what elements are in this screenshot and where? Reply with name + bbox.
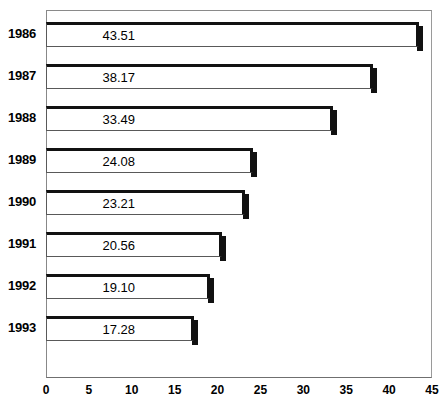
x-tick-30: 30 (297, 383, 310, 397)
bar-row: 33.49 (46, 106, 333, 131)
x-tick-10: 10 (125, 383, 138, 397)
bar-row: 19.10 (46, 274, 210, 299)
bar-value-label: 17.28 (46, 321, 135, 336)
bar-chart: 198643.51198738.17198833.49198924.081990… (0, 0, 447, 411)
bar-value-label: 33.49 (46, 111, 135, 126)
category-label-1990: 1990 (8, 194, 36, 209)
bar-value-label: 20.56 (46, 237, 135, 252)
x-tick-35: 35 (340, 383, 353, 397)
category-label-1988: 1988 (8, 110, 36, 125)
category-label-1991: 1991 (8, 236, 36, 251)
category-label-1986: 1986 (8, 26, 36, 41)
x-tick-5: 5 (86, 383, 93, 397)
bar-value-label: 19.10 (46, 279, 135, 294)
bar-row: 20.56 (46, 232, 222, 257)
bar-row: 17.28 (46, 316, 194, 341)
category-label-1989: 1989 (8, 152, 36, 167)
bar-value-label: 23.21 (46, 195, 135, 210)
x-tick-40: 40 (382, 383, 395, 397)
bar-row: 43.51 (46, 22, 419, 47)
category-label-1992: 1992 (8, 278, 36, 293)
x-tick-25: 25 (254, 383, 267, 397)
bar-value-label: 24.08 (46, 153, 135, 168)
x-tick-15: 15 (168, 383, 181, 397)
bar-row: 24.08 (46, 148, 253, 173)
bar-row: 38.17 (46, 64, 373, 89)
chart-title (0, 0, 447, 4)
x-tick-20: 20 (211, 383, 224, 397)
x-tick-0: 0 (43, 383, 50, 397)
bar-row: 23.21 (46, 190, 245, 215)
category-label-1993: 1993 (8, 320, 36, 335)
category-label-1987: 1987 (8, 68, 36, 83)
bar-value-label: 43.51 (46, 27, 135, 42)
x-tick-45: 45 (425, 383, 438, 397)
bar-value-label: 38.17 (46, 69, 135, 84)
